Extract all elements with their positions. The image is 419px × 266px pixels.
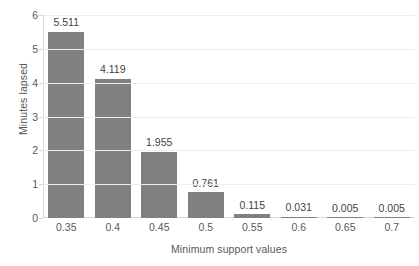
bar-data-label: 0.115: [240, 200, 266, 211]
y-axis-tick-label: 1: [22, 179, 38, 190]
bar-data-label: 0.761: [193, 178, 219, 189]
x-axis-tick-labels: 0.350.40.450.50.550.60.650.7: [43, 222, 415, 238]
gridline: [43, 150, 415, 151]
bar-data-label: 4.119: [100, 64, 126, 75]
y-axis-tick-mark: [39, 184, 43, 185]
bar-data-label: 5.511: [54, 17, 80, 28]
y-axis-tick-label: 2: [22, 145, 38, 156]
y-axis-tick-label: 3: [22, 111, 38, 122]
bar-chart: Minutes lapsed 0123456 5.5114.1191.9550.…: [0, 0, 419, 266]
y-axis-tick-label: 0: [22, 213, 38, 224]
y-axis-tick-mark: [39, 117, 43, 118]
gridline: [43, 117, 415, 118]
bar[interactable]: [48, 32, 84, 218]
y-axis-tick-mark: [39, 15, 43, 16]
bar[interactable]: [374, 217, 410, 218]
bar-data-label: 0.005: [332, 203, 358, 214]
y-axis-tick-mark: [39, 218, 43, 219]
y-axis-tick-label: 4: [22, 77, 38, 88]
x-axis-tick-label: 0.55: [242, 222, 262, 233]
x-axis-tick-label: 0.5: [198, 222, 213, 233]
bar[interactable]: [234, 214, 270, 218]
bar[interactable]: [327, 217, 363, 218]
x-axis-tick-label: 0.45: [149, 222, 169, 233]
bar-data-label: 1.955: [146, 137, 172, 148]
plot-area: 5.5114.1191.9550.7610.1150.0310.0050.005: [43, 15, 415, 218]
bar[interactable]: [95, 79, 131, 218]
bar[interactable]: [281, 217, 317, 218]
x-axis-tick-label: 0.4: [105, 222, 120, 233]
x-axis-tick-label: 0.65: [335, 222, 355, 233]
x-axis-title: Minimum support values: [43, 243, 415, 255]
y-axis-tick-label: 6: [22, 10, 38, 21]
gridline: [43, 15, 415, 16]
gridline: [43, 49, 415, 50]
gridline: [43, 83, 415, 84]
gridline: [43, 184, 415, 185]
x-axis-tick-label: 0.35: [56, 222, 76, 233]
y-axis-tick-labels: 0123456: [22, 15, 38, 218]
y-axis-tick-mark: [39, 83, 43, 84]
y-axis-tick-label: 5: [22, 44, 38, 55]
bar-data-label: 0.005: [379, 203, 405, 214]
bar-data-label: 0.031: [286, 202, 312, 213]
x-axis-tick-label: 0.7: [384, 222, 399, 233]
y-axis-tick-mark: [39, 150, 43, 151]
x-axis-tick-label: 0.6: [291, 222, 306, 233]
bar[interactable]: [188, 192, 224, 218]
y-axis-tick-mark: [39, 49, 43, 50]
